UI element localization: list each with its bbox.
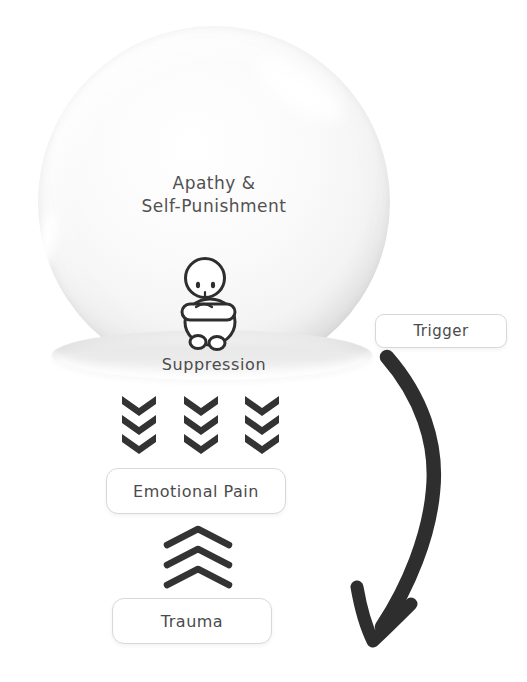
- globe-caption-line2: Self-Punishment: [94, 195, 334, 218]
- chevron-up-triple-icon: [160, 523, 236, 589]
- snow-globe-trauma-diagram: Apathy & Self-Punishment Suppression Tri…: [0, 0, 527, 682]
- curved-down-arrow-icon: [335, 348, 450, 653]
- suppression-label: Suppression: [114, 355, 314, 374]
- chevron-down-column-icon: [245, 396, 279, 454]
- globe-caption: Apathy & Self-Punishment: [94, 172, 334, 218]
- emotional-pain-label: Emotional Pain: [133, 482, 259, 501]
- trigger-chip: Trigger: [375, 314, 507, 348]
- person-head: [186, 259, 225, 298]
- trauma-label: Trauma: [161, 612, 223, 631]
- globe-caption-line1: Apathy &: [94, 172, 334, 195]
- sitting-person-icon: [172, 252, 256, 350]
- person-body: [182, 299, 235, 350]
- trigger-label: Trigger: [413, 322, 468, 340]
- trauma-chip: Trauma: [112, 598, 272, 644]
- emotional-pain-chip: Emotional Pain: [106, 468, 286, 514]
- chevron-down-column-icon: [184, 396, 218, 454]
- chevron-down-column-icon: [122, 396, 156, 454]
